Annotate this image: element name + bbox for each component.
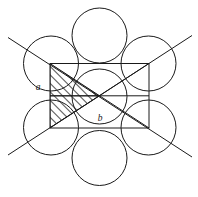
- label-b: b: [98, 113, 103, 123]
- label-a: a: [36, 82, 41, 92]
- packing-diagram-svg: a b: [0, 0, 198, 197]
- figure-container: a b: [0, 0, 198, 197]
- truncated-caption: [0, 189, 198, 197]
- figure-background: [0, 0, 198, 197]
